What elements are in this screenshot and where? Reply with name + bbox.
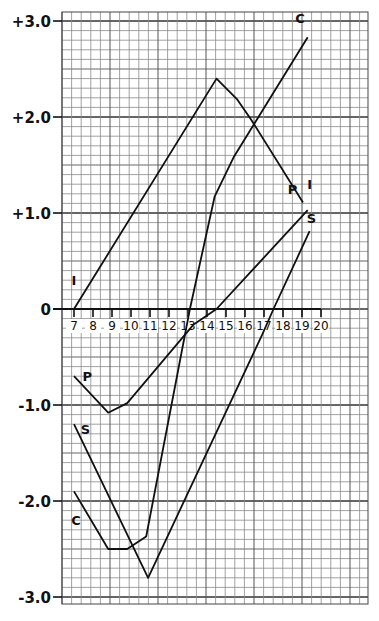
x-tick-label: 15 — [218, 319, 233, 333]
y-tick-label: 0 — [41, 301, 51, 319]
y-tick-label: -1.0 — [18, 397, 51, 415]
x-tick-label: 9 — [108, 319, 116, 333]
series-label-P: P — [288, 182, 298, 197]
line-chart: +3.0+2.0+1.00-1.0-2.0-3.0789101112131415… — [0, 0, 379, 621]
x-tick-label: 16 — [237, 319, 252, 333]
y-tick-label: +1.0 — [12, 205, 51, 223]
series-label-S: S — [307, 211, 316, 226]
y-tick-label: -2.0 — [18, 493, 51, 511]
x-tick-label: 18 — [275, 319, 290, 333]
series-label-C: C — [295, 11, 305, 26]
series-label-C: C — [71, 513, 81, 528]
x-tick-label: 10 — [123, 319, 138, 333]
x-tick-label: 20 — [313, 319, 328, 333]
y-tick-label: -3.0 — [18, 589, 51, 607]
x-tick-label: 19 — [294, 319, 309, 333]
series-label-S: S — [81, 422, 90, 437]
y-tick-label: +3.0 — [12, 13, 51, 31]
x-tick-label: 11 — [142, 319, 157, 333]
x-tick-label: 14 — [199, 319, 214, 333]
axes: +3.0+2.0+1.00-1.0-2.0-3.0789101112131415… — [12, 13, 329, 607]
series-label-I: I — [307, 177, 312, 192]
y-tick-label: +2.0 — [12, 109, 51, 127]
series-label-P: P — [83, 369, 93, 384]
x-tick-label: 8 — [89, 319, 97, 333]
x-tick-label: 7 — [70, 319, 78, 333]
x-tick-label: 12 — [161, 319, 176, 333]
series-lines — [74, 37, 310, 578]
series-label-I: I — [72, 273, 77, 288]
